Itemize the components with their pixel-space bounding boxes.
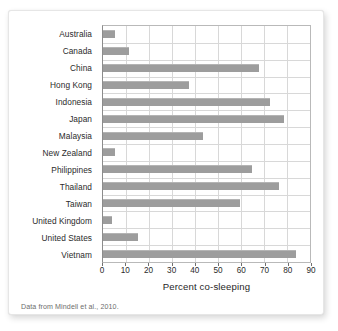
- category-label: China: [9, 59, 97, 76]
- bar-slot: [103, 211, 310, 228]
- plot-area: [102, 25, 311, 263]
- x-tick-label: 0: [100, 266, 105, 275]
- category-label: Japan: [9, 110, 97, 127]
- x-tick-label: 20: [144, 266, 153, 275]
- bar: [103, 132, 203, 140]
- x-tick-label: 60: [237, 266, 246, 275]
- x-tick-label: 80: [283, 266, 292, 275]
- bar: [103, 233, 138, 241]
- x-tick-label: 30: [167, 266, 176, 275]
- bar-slot: [103, 93, 310, 110]
- bar: [103, 182, 279, 190]
- x-tick-label: 70: [260, 266, 269, 275]
- bar: [103, 250, 296, 258]
- bar: [103, 148, 115, 156]
- category-label: Vietnam: [9, 246, 97, 263]
- bar: [103, 165, 252, 173]
- bar-chart: AustraliaCanadaChinaHong KongIndonesiaJa…: [9, 11, 324, 315]
- bar-slot: [103, 178, 310, 195]
- x-tick-label: 50: [214, 266, 223, 275]
- bar-slot: [103, 110, 310, 127]
- bar-slot: [103, 43, 310, 60]
- category-label: Malaysia: [9, 127, 97, 144]
- category-label: United States: [9, 229, 97, 246]
- x-axis-title: Percent co-sleeping: [102, 281, 311, 292]
- category-label: Canada: [9, 42, 97, 59]
- bar: [103, 98, 270, 106]
- bar-slot: [103, 144, 310, 161]
- category-label: Philippines: [9, 161, 97, 178]
- figure-card: AustraliaCanadaChinaHong KongIndonesiaJa…: [8, 10, 324, 315]
- bar: [103, 199, 240, 207]
- bar: [103, 47, 129, 55]
- category-label: Indonesia: [9, 93, 97, 110]
- bar: [103, 216, 112, 224]
- bar-slot: [103, 161, 310, 178]
- bar: [103, 30, 115, 38]
- bar-slot: [103, 26, 310, 43]
- bar-slot: [103, 195, 310, 212]
- bar: [103, 64, 259, 72]
- bar-series: [103, 26, 310, 262]
- category-label: New Zealand: [9, 144, 97, 161]
- category-label: Thailand: [9, 178, 97, 195]
- bar: [103, 115, 284, 123]
- bar-slot: [103, 60, 310, 77]
- x-tick-label: 10: [121, 266, 130, 275]
- x-tick-label: 90: [306, 266, 315, 275]
- x-tick-label: 40: [190, 266, 199, 275]
- bar-slot: [103, 228, 310, 245]
- bar-slot: [103, 245, 310, 262]
- bar-slot: [103, 127, 310, 144]
- category-axis-labels: AustraliaCanadaChinaHong KongIndonesiaJa…: [9, 25, 97, 263]
- bar-slot: [103, 77, 310, 94]
- source-note: Data from Mindell et al., 2010.: [21, 303, 119, 311]
- category-label: United Kingdom: [9, 212, 97, 229]
- category-label: Australia: [9, 25, 97, 42]
- category-label: Hong Kong: [9, 76, 97, 93]
- x-axis-tick-labels: 0102030405060708090: [102, 266, 311, 279]
- category-label: Taiwan: [9, 195, 97, 212]
- bar: [103, 81, 189, 89]
